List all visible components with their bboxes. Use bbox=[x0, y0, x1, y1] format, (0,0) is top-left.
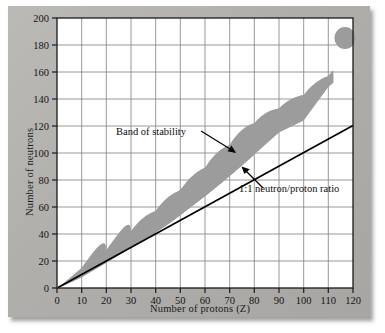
x-tick-label: 20 bbox=[101, 295, 112, 306]
x-tick-label: 110 bbox=[321, 295, 336, 306]
y-tick-label: 180 bbox=[33, 40, 49, 51]
y-tick-label: 120 bbox=[33, 121, 49, 132]
band-of-stability-figure: 0 20 40 60 80 100 120 140 160 180 200 0 … bbox=[0, 0, 385, 333]
x-tick-label: 80 bbox=[249, 295, 260, 306]
x-tick-label: 100 bbox=[296, 295, 312, 306]
y-tick-label: 200 bbox=[33, 13, 49, 24]
x-tick-label: 0 bbox=[54, 295, 59, 306]
y-tick-label: 60 bbox=[39, 202, 50, 213]
y-tick-label: 140 bbox=[33, 94, 49, 105]
x-axis-title: Number of protons (Z) bbox=[150, 303, 250, 314]
y-tick-labels: 0 20 40 60 80 100 120 140 160 180 200 bbox=[33, 13, 49, 294]
x-tick-label: 10 bbox=[76, 295, 87, 306]
y-tick-label: 40 bbox=[39, 229, 50, 240]
y-tick-label: 100 bbox=[33, 148, 49, 159]
y-tick-label: 160 bbox=[33, 67, 49, 78]
y-axis-ticks bbox=[52, 18, 57, 288]
ratio-annotation: 1:1 neutron/proton ratio bbox=[239, 183, 339, 194]
x-tick-label: 120 bbox=[345, 295, 361, 306]
chart-canvas: 0 20 40 60 80 100 120 140 160 180 200 0 … bbox=[8, 6, 370, 317]
x-axis-ticks bbox=[57, 288, 353, 293]
x-tick-label: 30 bbox=[126, 295, 137, 306]
band-of-stability-annotation: Band of stability bbox=[116, 126, 186, 137]
y-tick-label: 80 bbox=[39, 175, 50, 186]
x-tick-label: 90 bbox=[274, 295, 285, 306]
y-axis-title: Number of neutrons bbox=[24, 128, 35, 216]
y-tick-label: 0 bbox=[44, 283, 49, 294]
y-tick-label: 20 bbox=[39, 256, 50, 267]
